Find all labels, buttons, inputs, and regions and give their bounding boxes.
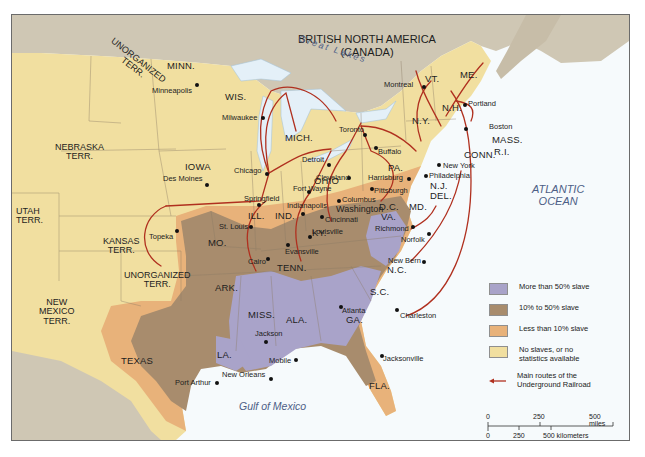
city-detroit: Detroit bbox=[302, 156, 324, 164]
city-boston: Boston bbox=[489, 123, 512, 131]
city-dot bbox=[249, 225, 253, 229]
city-pittsburgh: Pittsburgh bbox=[374, 187, 408, 195]
state-mo: MO. bbox=[208, 238, 227, 248]
city-dot bbox=[437, 163, 441, 167]
state-fla: FLA. bbox=[369, 381, 390, 391]
city-springfield: Springfield bbox=[244, 195, 279, 203]
city-new-york: New York bbox=[443, 162, 475, 170]
state-minn: MINN. bbox=[167, 61, 195, 71]
kansas-terr-label: KANSAS TERR. bbox=[103, 237, 140, 256]
arrow-left-icon bbox=[489, 372, 506, 382]
city-dot bbox=[327, 163, 331, 167]
state-nh: N.H. bbox=[442, 103, 462, 113]
state-iowa: IOWA bbox=[185, 162, 211, 172]
state-nc: N.C. bbox=[387, 265, 407, 275]
city-dot bbox=[265, 172, 269, 176]
city-des-moines: Des Moines bbox=[163, 175, 203, 183]
city-dot bbox=[294, 358, 298, 362]
city-dot bbox=[264, 340, 268, 344]
city-dot bbox=[320, 215, 324, 219]
nebraska-terr-label: NEBRASKA TERR. bbox=[55, 143, 104, 162]
state-miss: MISS. bbox=[248, 310, 275, 320]
city-norfolk: Norfolk bbox=[401, 236, 425, 244]
city-dot bbox=[427, 232, 431, 236]
city-dot bbox=[422, 85, 426, 89]
city-dot bbox=[337, 199, 341, 203]
utah-terr-label: UTAH TERR. bbox=[16, 207, 43, 226]
city-jackson: Jackson bbox=[255, 330, 283, 338]
city-louisville: Louisville bbox=[312, 228, 343, 236]
city-dot bbox=[395, 308, 399, 312]
city-fort-wayne: Fort Wayne bbox=[293, 185, 331, 193]
city-topeka: Topeka bbox=[149, 233, 173, 241]
scale-bar: 0 250 500 miles 0 250 500 kilometers bbox=[485, 413, 615, 441]
city-toronto: Toronto bbox=[339, 126, 364, 134]
city-columbus: Columbus bbox=[342, 196, 376, 204]
city-mobile: Mobile bbox=[269, 357, 291, 365]
state-texas: TEXAS bbox=[121, 356, 153, 366]
state-ga: GA. bbox=[346, 315, 363, 325]
city-dot bbox=[301, 212, 305, 216]
state-pa: PA. bbox=[388, 163, 403, 173]
city-montreal: Montreal bbox=[384, 81, 413, 89]
new-mexico-terr-label: NEW MEXICO TERR. bbox=[39, 298, 75, 326]
state-sc: S.C. bbox=[370, 287, 389, 297]
city-dot bbox=[266, 257, 270, 261]
state-nj: N.J. bbox=[430, 181, 448, 191]
city-st-louis: St. Louis bbox=[219, 223, 248, 231]
city-cincinnati: Cincinnati bbox=[325, 216, 358, 224]
city-dot bbox=[175, 229, 179, 233]
city-new-orleans: New Orleans bbox=[222, 371, 265, 379]
city-chicago: Chicago bbox=[234, 167, 262, 175]
city-richmond: Richmond bbox=[375, 225, 409, 233]
state-ark: ARK. bbox=[215, 283, 238, 293]
state-tenn: TENN. bbox=[277, 263, 307, 273]
state-del: DEL. bbox=[430, 191, 452, 201]
city-atlanta: Atlanta bbox=[342, 307, 365, 315]
legend-item-underground-railroad: Main routes of the Underground Railroad bbox=[489, 372, 621, 389]
city-jacksonville: Jacksonville bbox=[383, 355, 423, 363]
legend-swatch-high bbox=[489, 283, 508, 295]
legend-item-less-than-10: Less than 10% slave bbox=[489, 325, 621, 337]
city-port-arthur: Port Arthur bbox=[175, 379, 211, 387]
atlantic-ocean-label: ATLANTIC OCEAN bbox=[532, 183, 584, 207]
city-dot bbox=[424, 174, 428, 178]
state-vt: VT. bbox=[425, 74, 439, 84]
city-cairo: Cairo bbox=[248, 258, 266, 266]
gulf-of-mexico-label: Gulf of Mexico bbox=[239, 401, 306, 413]
city-dot bbox=[269, 377, 273, 381]
map-frame: BRITISH NORTH AMERICA (CANADA) Great Lak… bbox=[11, 14, 630, 441]
map-legend: More than 50% slave 10% to 50% slave Les… bbox=[489, 283, 621, 399]
state-wis: WIS. bbox=[225, 92, 246, 102]
city-minneapolis: Minneapolis bbox=[152, 87, 192, 95]
city-charleston: Charleston bbox=[400, 312, 436, 320]
city-washington: Washington bbox=[336, 205, 383, 214]
state-mass: MASS. bbox=[492, 135, 523, 145]
state-ill: ILL. bbox=[248, 211, 265, 221]
city-dot bbox=[215, 381, 219, 385]
state-ny: N.Y. bbox=[412, 116, 430, 126]
city-portland: Portland bbox=[468, 100, 496, 108]
state-mich: MICH. bbox=[285, 133, 313, 143]
city-philadelphia: Philadelphia bbox=[429, 172, 470, 180]
state-me: ME. bbox=[460, 70, 478, 80]
city-cleveland: Cleveland bbox=[316, 174, 349, 182]
city-dot bbox=[463, 103, 467, 107]
unorganized-terr-south-label: UNORGANIZED TERR. bbox=[124, 271, 191, 290]
city-buffalo: Buffalo bbox=[378, 148, 401, 156]
legend-swatch-low bbox=[489, 325, 508, 337]
city-dot bbox=[407, 177, 411, 181]
city-dot bbox=[261, 116, 265, 120]
scale-line bbox=[485, 422, 615, 432]
city-dot bbox=[205, 183, 209, 187]
legend-swatch-free bbox=[489, 346, 508, 358]
legend-swatch-mid bbox=[489, 304, 508, 316]
city-evansville: Evansville bbox=[285, 248, 319, 256]
state-va: VA. bbox=[381, 212, 396, 222]
city-dot bbox=[257, 203, 261, 207]
state-conn: CONN. bbox=[464, 150, 496, 160]
city-dot bbox=[411, 225, 415, 229]
city-dot bbox=[195, 83, 199, 87]
legend-item-10-to-50: 10% to 50% slave bbox=[489, 304, 621, 316]
state-ri: R.I. bbox=[494, 147, 510, 157]
